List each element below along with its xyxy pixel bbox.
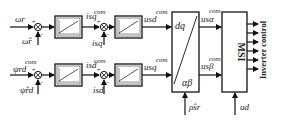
alphabeta-label: αβ	[182, 77, 192, 88]
speed-summing-junction-icon	[34, 23, 41, 30]
flux-reference-sup: com	[25, 58, 37, 66]
current-summing-junction-icon	[100, 23, 107, 30]
sum-minus-sign: -	[41, 79, 43, 85]
speed-reference-label: ωr	[15, 14, 25, 24]
dq-label: dq	[175, 20, 185, 31]
isq-reference-sup: com	[94, 8, 106, 16]
sum-minus-sign: -	[107, 31, 109, 37]
u-alpha-sup: com	[209, 7, 221, 15]
isd-summing-junction-icon	[100, 71, 107, 78]
usq-reference-sup: com	[156, 56, 168, 64]
usd-reference-sup: com	[156, 8, 168, 16]
dq-to-alphabeta-transform-block: dq αβ	[172, 12, 199, 92]
flux-summing-junction-icon	[34, 71, 41, 78]
u-beta-sup: com	[209, 55, 221, 63]
isq-current-controller-block	[115, 16, 142, 38]
sum-plus-sign: +	[97, 19, 101, 25]
isd-feedback-label: isd	[93, 85, 104, 95]
control-block-diagram: ωr + - ω̂r isq com + - is	[0, 0, 281, 124]
flux-control-row: ψrd com + - ψ̂rd isd com + - is	[10, 56, 171, 95]
isq-feedback-label: isq	[92, 38, 103, 48]
dc-voltage-label: ud	[240, 102, 250, 112]
flux-controller-block	[55, 64, 82, 86]
sum-plus-sign: +	[97, 67, 101, 73]
msi-label: MSI	[236, 43, 247, 62]
speed-estimate-label: ω̂r	[22, 36, 32, 46]
speed-controller-block	[55, 16, 82, 38]
inverter-control-outputs	[247, 24, 258, 69]
flux-estimate-label: ψ̂rd	[20, 85, 34, 95]
sum-minus-sign: -	[41, 31, 43, 37]
inverter-control-label: Inverter control	[258, 20, 268, 79]
u-alpha-label: usα	[201, 14, 214, 24]
speed-control-row: ωr + - ω̂r isq com + - is	[10, 8, 171, 48]
msi-modulator-block: MSI	[222, 12, 247, 92]
rotor-angle-label: ρ̂sr	[188, 102, 201, 112]
sum-minus-sign: -	[107, 79, 109, 85]
isd-current-controller-block	[115, 64, 142, 86]
isd-reference-sup: com	[94, 57, 106, 65]
